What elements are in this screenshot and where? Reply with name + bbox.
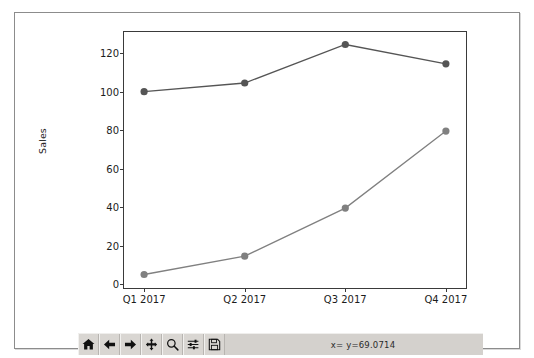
zoom-button[interactable] [162, 334, 183, 355]
y-tick-mark [120, 130, 124, 131]
y-tick-mark [120, 207, 124, 208]
x-tick-mark [245, 288, 246, 292]
home-button[interactable] [78, 334, 99, 355]
x-tick-mark [345, 288, 346, 292]
y-tick-label: 120 [100, 48, 119, 59]
y-tick-mark [120, 246, 124, 247]
data-point-marker [141, 88, 148, 95]
figure-window: Sales 020406080100120Q1 2017Q2 2017Q3 20… [14, 12, 520, 349]
arrow-right-icon [124, 338, 137, 351]
y-tick-label: 60 [106, 163, 119, 174]
y-axis-label: Sales [37, 101, 48, 181]
coordinate-readout: x= y=69.0714 [225, 340, 483, 350]
pan-button[interactable] [141, 334, 162, 355]
data-point-marker [442, 128, 449, 135]
y-tick-label: 80 [106, 125, 119, 136]
data-point-marker [241, 253, 248, 260]
y-tick-label: 20 [106, 240, 119, 251]
back-button[interactable] [99, 334, 120, 355]
y-tick-label: 100 [100, 86, 119, 97]
data-point-marker [342, 205, 349, 212]
sliders-icon [187, 338, 200, 351]
y-tick-mark [120, 284, 124, 285]
data-point-marker [241, 79, 248, 86]
plot-area[interactable]: 020406080100120Q1 2017Q2 2017Q3 2017Q4 2… [123, 31, 467, 289]
floppy-disk-icon [208, 338, 221, 351]
x-tick-label: Q2 2017 [223, 294, 266, 305]
save-figure-button[interactable] [204, 334, 225, 355]
figure-canvas[interactable]: Sales 020406080100120Q1 2017Q2 2017Q3 20… [15, 13, 519, 309]
y-tick-label: 0 [113, 279, 119, 290]
x-tick-mark [446, 288, 447, 292]
y-tick-mark [120, 169, 124, 170]
y-tick-mark [120, 53, 124, 54]
configure-subplots-button[interactable] [183, 334, 204, 355]
data-point-marker [342, 41, 349, 48]
x-tick-label: Q3 2017 [324, 294, 367, 305]
forward-button[interactable] [120, 334, 141, 355]
app-root: Sales 020406080100120Q1 2017Q2 2017Q3 20… [0, 0, 534, 358]
series-line [144, 45, 446, 92]
arrow-left-icon [103, 338, 116, 351]
data-point-marker [141, 271, 148, 278]
data-point-marker [442, 60, 449, 67]
x-tick-mark [144, 288, 145, 292]
series-line [144, 131, 446, 274]
navigation-toolbar[interactable]: x= y=69.0714 [78, 333, 483, 355]
move-icon [145, 338, 158, 351]
y-tick-mark [120, 92, 124, 93]
x-tick-label: Q4 2017 [424, 294, 467, 305]
home-icon [82, 338, 95, 351]
y-tick-label: 40 [106, 202, 119, 213]
magnifier-icon [166, 338, 179, 351]
x-tick-label: Q1 2017 [123, 294, 166, 305]
plot-lines [124, 32, 466, 288]
